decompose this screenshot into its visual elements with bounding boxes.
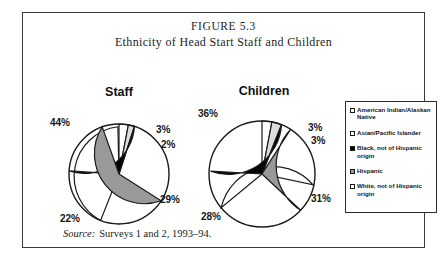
legend: American Indian/Alaskan Native Asian/Pac…	[345, 101, 437, 213]
legend-item-asian-pacific: Asian/Pacific Islander	[350, 129, 433, 136]
legend-label-american-indian: American Indian/Alaskan Native	[357, 106, 433, 121]
legend-item-american-indian: American Indian/Alaskan Native	[350, 106, 433, 121]
source-text: Surveys 1 and 2, 1993–94.	[99, 228, 211, 239]
children-label-black: 31%	[311, 193, 331, 204]
legend-swatch-icon-hispanic	[350, 169, 355, 174]
legend-swatch-icon-black	[350, 146, 355, 151]
children-label-hispanic: 28%	[201, 211, 221, 222]
staff-chart-heading: Staff	[79, 85, 159, 99]
children-label-white: 36%	[198, 108, 218, 119]
figure-frame: FIGURE 5.3 Ethnicity of Head Start Staff…	[22, 12, 425, 248]
legend-item-black: Black, not of Hispanic origin	[350, 144, 433, 159]
staff-label-white: 44%	[50, 117, 70, 128]
staff-label-black: 29%	[160, 194, 180, 205]
figure-page: FIGURE 5.3 Ethnicity of Head Start Staff…	[0, 0, 445, 267]
legend-swatch-icon-american-indian	[350, 108, 355, 113]
children-label-american-indian: 3%	[308, 122, 322, 133]
legend-label-asian-pacific: Asian/Pacific Islander	[357, 129, 421, 136]
source-note: Source:Surveys 1 and 2, 1993–94.	[63, 228, 211, 239]
legend-label-hispanic: Hispanic	[357, 167, 383, 174]
legend-swatch-icon-white	[350, 184, 355, 189]
source-label: Source:	[63, 228, 95, 239]
children-label-asian-pacific: 3%	[311, 135, 325, 146]
legend-swatch-icon-asian-pacific	[350, 131, 355, 136]
legend-item-white: White, not of Hispanic origin	[350, 182, 433, 197]
legend-item-hispanic: Hispanic	[350, 167, 433, 174]
children-pie-chart	[207, 119, 317, 229]
staff-pie-chart	[67, 122, 171, 226]
staff-label-american-indian: 3%	[156, 124, 170, 135]
figure-title: Ethnicity of Head Start Staff and Childr…	[23, 34, 424, 50]
children-chart-heading: Children	[219, 84, 309, 98]
staff-label-asian-pacific: 2%	[161, 139, 175, 150]
staff-label-hispanic: 22%	[60, 213, 80, 224]
figure-number: FIGURE 5.3	[23, 19, 424, 34]
legend-label-white: White, not of Hispanic origin	[357, 182, 433, 197]
figure-title-block: FIGURE 5.3 Ethnicity of Head Start Staff…	[23, 19, 424, 50]
legend-label-black: Black, not of Hispanic origin	[357, 144, 433, 159]
